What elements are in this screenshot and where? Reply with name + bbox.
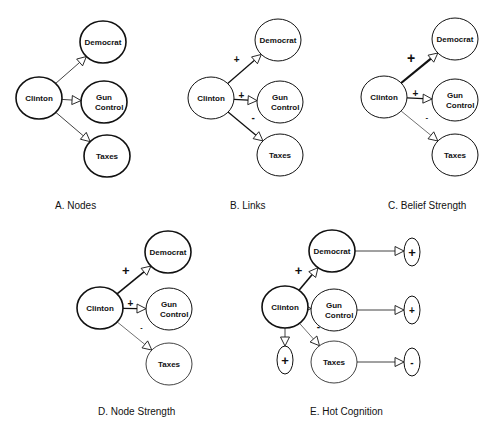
arrowhead-icon: [423, 94, 432, 103]
link-clinton-democrat: +: [117, 263, 151, 294]
associative-network-figure: DemocratGunControlTaxesClintonA. Nodes+D…: [0, 0, 484, 431]
affect-node: -: [404, 348, 420, 376]
node-label-line2: Control: [271, 103, 299, 112]
node-clinton: Clinton: [188, 77, 234, 119]
node-democrat: Democrat: [432, 18, 478, 60]
link-clinton-democrat: [56, 57, 87, 84]
node-label-line2: Control: [160, 310, 188, 319]
node-label-line2: Control: [95, 103, 123, 112]
link-line: [56, 112, 84, 135]
node-label: Democrat: [150, 248, 187, 257]
node-label: Gun: [447, 91, 463, 100]
plus-sign: +: [408, 245, 416, 260]
link-clinton-taxes: -: [300, 321, 321, 346]
node-taxes: Taxes: [257, 134, 303, 176]
node-democrat: Democrat: [80, 21, 126, 63]
affect-node: +: [404, 238, 420, 266]
panel-c: +Democrat+GunControl-TaxesClintonC. Beli…: [361, 18, 478, 211]
node-clinton: Clinton: [77, 287, 123, 329]
arrowhead-icon: [395, 306, 404, 315]
arrowhead-icon: [281, 337, 290, 346]
link-line: [56, 62, 80, 83]
arrowhead-icon: [253, 132, 263, 141]
node-democrat: Democrat: [309, 230, 355, 272]
node-label-line2: Control: [446, 101, 474, 110]
link-clinton-gun: +: [407, 88, 432, 103]
arrowhead-icon: [142, 341, 152, 350]
minus-sign: -: [140, 324, 143, 331]
plus-sign: +: [409, 305, 415, 316]
panel-caption: E. Hot Cognition: [310, 406, 383, 417]
arrowhead-icon: [72, 96, 81, 105]
node-gun: GunControl: [257, 81, 303, 123]
node-label: Taxes: [158, 360, 181, 369]
panel-b: +Democrat+GunControl-TaxesClintonB. Link…: [188, 19, 303, 211]
link-clinton-democrat: +: [228, 54, 262, 83]
plus-sign: +: [239, 90, 245, 101]
node-label: Taxes: [323, 358, 346, 367]
minus-sign: -: [425, 113, 428, 122]
panel-a: DemocratGunControlTaxesClintonA. Nodes: [16, 21, 130, 211]
node-taxes: Taxes: [84, 135, 130, 177]
link-clinton-taxes: -: [228, 112, 263, 141]
minus-sign: -: [410, 357, 413, 368]
panel-caption: C. Belief Strength: [388, 200, 466, 211]
link-line: [401, 59, 431, 83]
node-label: Clinton: [86, 304, 114, 313]
plus-sign: +: [281, 353, 289, 368]
arrowhead-icon: [137, 304, 146, 313]
arrowhead-icon: [310, 336, 319, 346]
node-label: Taxes: [444, 151, 467, 160]
node-taxes: Taxes: [146, 343, 192, 385]
node-taxes: Taxes: [432, 134, 478, 176]
node-clinton: Clinton: [262, 286, 308, 328]
node-taxes: Taxes: [311, 341, 357, 383]
affect-node: +: [404, 296, 420, 324]
node-label: Clinton: [370, 93, 398, 102]
link-clinton-gun: +: [234, 90, 257, 105]
node-label: Gun: [96, 93, 112, 102]
node-label-line2: Control: [325, 311, 353, 320]
minus-sign: -: [317, 321, 320, 332]
node-gun-ellipse: [432, 79, 478, 121]
node-gun: GunControl: [81, 81, 127, 123]
node-gun-ellipse: [81, 81, 127, 123]
node-label: Taxes: [96, 152, 119, 161]
node-label: Democrat: [314, 247, 351, 256]
arrowhead-icon: [77, 57, 87, 66]
link-clinton-taxes: -: [401, 111, 438, 141]
plus-sign: +: [128, 298, 134, 309]
minus-sign: -: [251, 112, 254, 123]
plus-sign: +: [413, 88, 419, 99]
node-democrat: Democrat: [255, 19, 301, 61]
arrowhead-icon: [395, 247, 404, 256]
arrowhead-icon: [80, 132, 90, 141]
arrowhead-icon: [428, 132, 438, 141]
node-clinton: Clinton: [16, 77, 62, 119]
node-gun: GunControl: [146, 288, 192, 330]
node-label: Gun: [326, 301, 342, 310]
panel-caption: A. Nodes: [55, 200, 96, 211]
node-label: Gun: [161, 300, 177, 309]
arrowhead-icon: [395, 358, 404, 367]
node-label: Gun: [272, 93, 288, 102]
link-clinton-democrat: +: [401, 50, 438, 83]
panel-caption: B. Links: [230, 200, 266, 211]
node-label: Democrat: [437, 35, 474, 44]
plus-sign: +: [122, 263, 130, 278]
node-label: Democrat: [85, 38, 122, 47]
link-clinton-democrat: +: [295, 263, 318, 290]
link-clinton-taxes: [56, 112, 90, 141]
link-clinton-taxes: -: [117, 322, 152, 350]
node-label: Clinton: [197, 94, 225, 103]
link-clinton-gun: +: [123, 298, 146, 313]
link-line: [228, 60, 255, 83]
plus-sign: +: [407, 50, 415, 66]
node-gun-ellipse: [146, 288, 192, 330]
link-line: [62, 99, 72, 100]
panel-e: +Democrat++GunControl+-Taxes-Clinton+E. …: [262, 230, 420, 417]
panel-caption: D. Node Strength: [98, 406, 175, 417]
arrowhead-icon: [248, 96, 257, 105]
node-gun-ellipse: [257, 81, 303, 123]
affect-node: +: [277, 346, 293, 374]
